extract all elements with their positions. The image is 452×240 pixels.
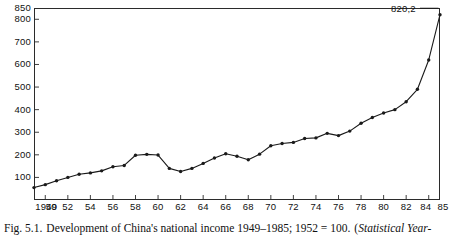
x-tick-label: 64 [198, 201, 209, 212]
data-point [382, 111, 385, 114]
x-tick-label: 74 [310, 201, 321, 212]
data-point [314, 136, 317, 139]
x-tick-label: 56 [107, 201, 118, 212]
x-tick-label: 66 [220, 201, 231, 212]
caption-source: Statistical Year- [358, 222, 431, 234]
data-point [393, 108, 396, 111]
x-tick-label: 52 [62, 201, 73, 212]
data-point-markers [32, 13, 441, 189]
x-tick-label: 50 [46, 201, 57, 212]
data-point [168, 167, 171, 170]
data-point [111, 165, 114, 168]
data-point [100, 169, 103, 172]
x-tick-label: 82 [401, 201, 412, 212]
data-point [123, 164, 126, 167]
x-tick-label: 84 [420, 201, 431, 212]
x-axis-ticks [45, 195, 428, 200]
data-point [145, 153, 148, 156]
data-point [427, 58, 430, 61]
data-point [292, 141, 295, 144]
data-point [359, 122, 362, 125]
x-tick-label: 80 [378, 201, 389, 212]
data-point [179, 170, 182, 173]
x-tick-label: 72 [288, 201, 299, 212]
data-line-national-income [34, 15, 440, 188]
data-point [55, 179, 58, 182]
data-point [416, 88, 419, 91]
data-point [371, 116, 374, 119]
data-point [77, 173, 80, 176]
data-point [66, 176, 69, 179]
data-point [44, 183, 47, 186]
chart-plot-area: 100200300400500600700800850 820,2 194950… [0, 0, 452, 212]
x-tick-label: 70 [265, 201, 276, 212]
data-point [134, 154, 137, 157]
x-tick-label: 85 [438, 201, 449, 212]
data-point [326, 132, 329, 135]
chart-svg [0, 0, 452, 212]
data-point [235, 154, 238, 157]
x-axis-labels: 1949505254565860626466687072747678808284… [0, 201, 452, 215]
x-tick-label: 76 [333, 201, 344, 212]
caption-number: Fig. 5.1. [4, 222, 42, 234]
x-tick-label: 68 [243, 201, 254, 212]
data-point [303, 137, 306, 140]
data-label-820: 820,2 [391, 3, 416, 14]
data-point [337, 134, 340, 137]
data-point [348, 129, 351, 132]
data-point [404, 100, 407, 103]
data-point [156, 153, 159, 156]
data-point [32, 186, 35, 189]
data-point [89, 171, 92, 174]
data-point [258, 152, 261, 155]
x-tick-label: 54 [85, 201, 96, 212]
x-tick-label: 62 [175, 201, 186, 212]
data-point [247, 158, 250, 161]
x-tick-label: 60 [153, 201, 164, 212]
data-point [201, 162, 204, 165]
figure-caption: Fig. 5.1.Development of China's national… [4, 221, 450, 235]
data-point [269, 144, 272, 147]
y-axis-ticks [34, 19, 39, 177]
caption-text: Development of China's national income 1… [46, 222, 350, 234]
data-point [190, 167, 193, 170]
figure-5-1: 100200300400500600700800850 820,2 194950… [0, 0, 452, 240]
x-tick-label: 58 [130, 201, 141, 212]
x-tick-label: 78 [356, 201, 367, 212]
data-point [280, 142, 283, 145]
data-point [213, 156, 216, 159]
data-point [438, 13, 441, 16]
data-point [224, 152, 227, 155]
